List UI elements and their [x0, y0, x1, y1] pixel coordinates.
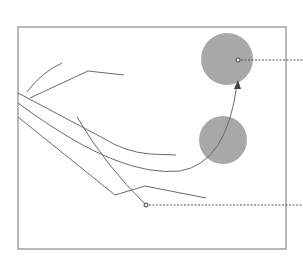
callout-lower-dot-icon: [144, 203, 148, 207]
bent-polyline-top: [30, 71, 124, 98]
circles-group: [199, 33, 253, 164]
diagram-canvas: [0, 0, 303, 270]
upper-sweep-curve: [18, 93, 176, 155]
lower-circle: [199, 116, 247, 164]
callout-upper-dot-icon: [236, 58, 240, 62]
upper-circle: [201, 33, 253, 85]
short-curve: [27, 63, 62, 92]
lower-polyline: [18, 117, 206, 198]
